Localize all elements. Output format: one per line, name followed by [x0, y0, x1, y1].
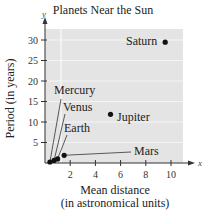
- data-point-jupiter: [108, 112, 113, 117]
- x-tick-label: 4: [93, 169, 98, 180]
- x-axis-label-line1: Mean distance: [40, 183, 190, 197]
- x-axis-letter: x: [197, 158, 202, 168]
- point-label-jupiter: Jupiter: [117, 110, 150, 124]
- y-axis-letter: y: [41, 9, 46, 19]
- point-label-earth: Earth: [64, 121, 90, 135]
- y-tick-label: 15: [28, 96, 38, 107]
- data-point-mars: [62, 153, 67, 158]
- x-tick-label: 6: [118, 169, 123, 180]
- y-tick-label: 25: [28, 55, 38, 66]
- point-label-mars: Mars: [134, 144, 159, 158]
- x-tick-label: 10: [166, 169, 176, 180]
- data-point-earth: [55, 156, 60, 161]
- y-tick-label: 10: [28, 117, 38, 128]
- x-tick-label: 2: [68, 169, 73, 180]
- point-label-venus: Venus: [63, 100, 93, 114]
- data-point-saturn: [163, 40, 168, 45]
- x-axis-arrow-icon: [188, 161, 195, 166]
- point-label-saturn: Saturn: [126, 34, 157, 48]
- y-axis-label: Period (in years): [3, 49, 18, 149]
- point-label-mercury: Mercury: [54, 83, 95, 97]
- x-axis-label-line2: (in astronomical units): [40, 196, 190, 210]
- x-tick-label: 8: [143, 169, 148, 180]
- y-tick-label: 20: [28, 76, 38, 87]
- y-tick-label: 30: [28, 35, 38, 46]
- y-tick-label: 5: [33, 137, 38, 148]
- scatter-plot: xy24681051015202530MercuryVenusEarthMars…: [0, 0, 206, 212]
